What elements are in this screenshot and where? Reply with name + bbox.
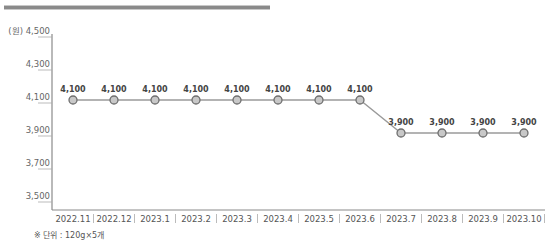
unit-footnote: ※ 단위 : 120g×5개: [34, 229, 104, 240]
data-label: 3,900: [388, 118, 414, 127]
data-label: 3,900: [511, 118, 537, 127]
y-tick-label: 3,500: [26, 191, 50, 201]
data-point-marker: [274, 96, 282, 104]
x-tick-label: 2023.2: [181, 214, 211, 224]
y-tick-label: 4,300: [26, 59, 50, 69]
x-tick-label: 2023.3: [222, 214, 252, 224]
x-tick-label: 2023.10: [506, 214, 541, 224]
line-chart: 3,5003,7003,9004,1004,300(원) 4,5002022.1…: [0, 0, 559, 248]
data-point-marker: [438, 129, 446, 137]
data-point-marker: [520, 129, 528, 137]
data-label: 4,100: [265, 85, 291, 94]
data-label: 4,100: [183, 85, 209, 94]
data-label: 4,100: [142, 85, 168, 94]
data-point-marker: [192, 96, 200, 104]
data-point-marker: [397, 129, 405, 137]
y-tick-label: 4,100: [26, 92, 50, 102]
x-tick-label: 2023.4: [263, 214, 293, 224]
x-tick-label: 2023.8: [427, 214, 457, 224]
data-label: 4,100: [101, 85, 127, 94]
data-label: 4,100: [306, 85, 332, 94]
data-point-marker: [110, 96, 118, 104]
data-label: 4,100: [224, 85, 250, 94]
y-tick-label: (원) 4,500: [8, 26, 50, 36]
y-tick-label: 3,900: [26, 125, 50, 135]
y-tick-label: 3,700: [26, 158, 50, 168]
data-point-marker: [315, 96, 323, 104]
data-point-marker: [69, 96, 77, 104]
x-tick-label: 2023.1: [140, 214, 170, 224]
data-point-marker: [479, 129, 487, 137]
series-line: [73, 100, 524, 133]
data-label: 3,900: [470, 118, 496, 127]
x-tick-label: 2022.12: [96, 214, 131, 224]
data-label: 4,100: [347, 85, 373, 94]
data-label: 4,100: [60, 85, 86, 94]
x-tick-label: 2023.7: [386, 214, 416, 224]
x-tick-label: 2022.11: [55, 214, 90, 224]
data-point-marker: [151, 96, 159, 104]
x-tick-label: 2023.5: [304, 214, 334, 224]
x-tick-label: 2023.6: [345, 214, 375, 224]
data-label: 3,900: [429, 118, 455, 127]
data-point-marker: [233, 96, 241, 104]
x-tick-label: 2023.9: [468, 214, 498, 224]
data-point-marker: [356, 96, 364, 104]
